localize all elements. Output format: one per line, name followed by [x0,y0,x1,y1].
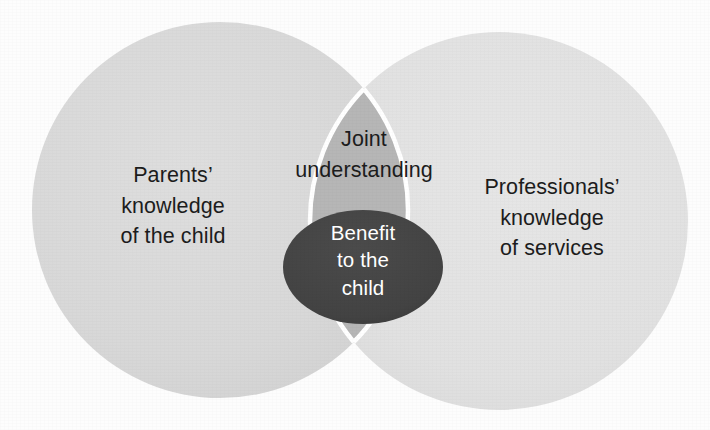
venn-diagram-canvas: Parents’ knowledge of the child Joint un… [0,0,710,430]
venn-label-joint-understanding: Joint understanding [276,124,452,185]
venn-label-parents: Parents’ knowledge of the child [66,160,280,252]
venn-label-professionals: Professionals’ knowledge of services [440,172,664,264]
venn-label-benefit-to-the-child: Benefit to the child [283,219,443,301]
